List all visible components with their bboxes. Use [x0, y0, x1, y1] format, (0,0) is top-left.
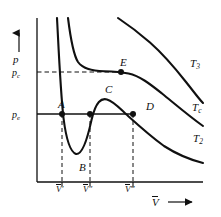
marked-points [59, 69, 136, 117]
pe-sub: e [17, 114, 20, 121]
figure-canvas: p pc pe V V′ V″ V‴ A B C D E T3 Tc T2 [0, 0, 221, 217]
v2-primes: ″ [89, 184, 93, 194]
v3-main: V [125, 185, 131, 194]
curve-label-Tc: Tc [192, 102, 201, 115]
T3-sub: 3 [196, 62, 200, 71]
x-tick-label-v2: V″ [83, 185, 92, 194]
point-M [87, 111, 93, 117]
T2-sub: 2 [199, 137, 203, 146]
y-tick-label-pe: pe [12, 110, 20, 122]
x-tick-label-v3: V‴ [125, 185, 134, 194]
v3-primes: ‴ [131, 184, 135, 194]
v2-main: V [83, 185, 89, 194]
pc-sub: c [17, 72, 20, 79]
v1-main: V [56, 185, 62, 194]
point-label-C: C [105, 84, 112, 95]
y-tick-label-pc: pc [12, 68, 20, 80]
point-label-A: A [58, 99, 65, 110]
point-label-E: E [120, 57, 127, 68]
x-axis-label-text: V [152, 197, 159, 208]
point-E [118, 69, 124, 75]
curve-Tc [68, 18, 203, 126]
Tc-sub: c [198, 106, 201, 115]
point-label-B: B [79, 162, 86, 173]
x-axis-label: V [152, 197, 159, 208]
curve-T2 [57, 18, 203, 163]
curve-label-T2: T2 [193, 133, 203, 146]
point-label-D: D [146, 101, 154, 112]
curve-label-T3: T3 [190, 58, 200, 71]
point-D [130, 111, 136, 117]
y-axis-label: p [13, 54, 19, 65]
pv-isotherm-plot [0, 0, 221, 217]
point-A [59, 111, 65, 117]
x-tick-label-v1: V′ [56, 185, 63, 194]
